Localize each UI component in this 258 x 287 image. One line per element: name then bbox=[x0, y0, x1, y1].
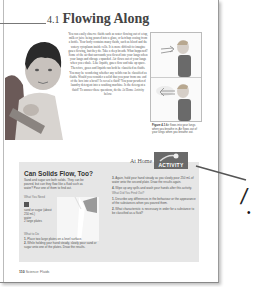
pouring-illustration bbox=[57, 197, 99, 241]
activity-right-column: 3. Again, hold your hand steady as you s… bbox=[112, 177, 198, 217]
materials-list: sand or sugar (about 250 mL) water 2 lar… bbox=[24, 202, 56, 224]
figure-panel-exhale bbox=[151, 77, 201, 121]
section-title: 4.1Flowing Along bbox=[47, 11, 149, 27]
what-to-do-heading: What to Do bbox=[24, 232, 39, 236]
figure-panel-inhale bbox=[151, 33, 201, 78]
page-footer: 110 Science: Fluids bbox=[19, 270, 49, 274]
figure-caption: Figure 4.1 Air flows into your lungs whe… bbox=[152, 124, 200, 135]
step-item: 3. Again, hold your hand steady as you s… bbox=[112, 177, 198, 185]
title-rule bbox=[0, 23, 46, 24]
boy-photo bbox=[5, 30, 67, 140]
textbook-page: 4.1Flowing Along You can easily observe … bbox=[0, 0, 219, 283]
body-text: You can easily observe fluids such as wa… bbox=[68, 32, 148, 97]
what-you-need-heading: What You Need bbox=[24, 195, 45, 199]
activity-intro: Sand and sugar are both solids. They can… bbox=[24, 179, 86, 190]
bullet-icon: • bbox=[247, 207, 251, 218]
section-number: 4.1 bbox=[47, 14, 60, 25]
section-title-text: Flowing Along bbox=[63, 11, 150, 26]
step-item: 4. Wipe up any spills and wash your hand… bbox=[112, 187, 198, 191]
materials-icon bbox=[24, 202, 29, 207]
question-item: 2. What characteristic is necessary in o… bbox=[112, 208, 198, 216]
steps-list-left: 1. Place two large plates on a level sur… bbox=[24, 238, 104, 249]
body-paragraph-1: You can easily observe fluids such as wa… bbox=[68, 32, 148, 70]
running-title: Science: Fluids bbox=[26, 270, 50, 274]
body-paragraph-2: You may be wondering whether any solids … bbox=[68, 71, 148, 96]
at-home-label: At Home bbox=[130, 158, 152, 164]
page-number: 110 bbox=[19, 270, 25, 274]
what-did-you-find-out-heading: What Did You Find Out? bbox=[112, 192, 198, 196]
material-item: 2 large plates bbox=[24, 220, 56, 224]
activity-badge: ACTIVITY bbox=[154, 152, 188, 169]
activity-badge-label: ACTIVITY bbox=[154, 162, 188, 168]
step-item: 2. While holding your hand steady, slowl… bbox=[24, 242, 104, 250]
activity-title: Can Solids Flow, Too? bbox=[24, 170, 93, 177]
page-binding-edge bbox=[3, 0, 4, 282]
figure-breathing bbox=[150, 32, 202, 122]
question-item: 1. Describe any differences in the behav… bbox=[112, 198, 198, 206]
